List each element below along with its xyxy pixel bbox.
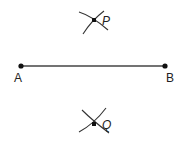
label-b: B — [166, 71, 174, 85]
label-p: P — [102, 14, 110, 28]
construction-diagram: A B P Q — [0, 0, 184, 145]
point-a — [18, 63, 23, 68]
label-q: Q — [102, 118, 111, 132]
point-b — [162, 63, 167, 68]
label-a: A — [14, 71, 22, 85]
